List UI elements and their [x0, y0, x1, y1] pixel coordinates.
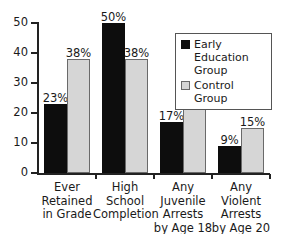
x-axis-tick [269, 174, 271, 179]
y-axis-tick [31, 112, 37, 114]
bar-value-label: 9% [220, 134, 238, 146]
bar: 17% [160, 122, 183, 173]
chart-legend: Early Education Group Control Group [175, 33, 272, 110]
y-axis-tick [31, 82, 37, 84]
legend-swatch-light-icon [181, 81, 190, 90]
legend-swatch-dark-icon [181, 40, 190, 49]
bar-value-label: 15% [240, 116, 266, 128]
bar-chart: 01020304050 23%38%50%38%17%25%9%15% Ever… [0, 0, 284, 234]
y-axis-tick [31, 52, 37, 54]
bar: 38% [125, 59, 148, 173]
y-axis-tick [31, 142, 37, 144]
x-axis-category-label: Ever Retained in Grade [35, 181, 99, 222]
y-axis-tick-label: 50 [0, 17, 28, 29]
x-axis-tick [95, 174, 97, 179]
legend-item-control-group: Control Group [181, 79, 266, 105]
y-axis-tick-label: 10 [0, 137, 28, 149]
legend-item-early-education-group: Early Education Group [181, 38, 266, 77]
bar: 15% [241, 128, 264, 173]
legend-label: Control Group [194, 79, 266, 105]
x-axis-tick [211, 174, 213, 179]
x-axis-category-label: Any Violent Arrests by Age 20 [209, 181, 273, 234]
bar: 9% [218, 146, 241, 173]
bar-value-label: 38% [66, 47, 92, 59]
bar: 50% [102, 23, 125, 173]
y-axis-line [37, 22, 39, 174]
legend-label: Early Education Group [194, 38, 266, 77]
y-axis-tick-label: 40 [0, 47, 28, 59]
y-axis-tick-label: 30 [0, 77, 28, 89]
y-axis-tick-label: 20 [0, 107, 28, 119]
bar-value-label: 50% [101, 11, 127, 23]
bar: 38% [67, 59, 90, 173]
x-axis-tick [153, 174, 155, 179]
bar: 23% [44, 104, 67, 173]
x-axis-category-label: High School Completion [93, 181, 157, 222]
y-axis-tick [31, 22, 37, 24]
bar-value-label: 17% [159, 110, 185, 122]
y-axis-tick [31, 172, 37, 174]
y-axis-tick-label: 0 [0, 167, 28, 179]
x-axis-category-label: Any Juvenile Arrests by Age 18 [151, 181, 215, 234]
bar-value-label: 38% [124, 47, 150, 59]
bar-value-label: 23% [43, 92, 69, 104]
